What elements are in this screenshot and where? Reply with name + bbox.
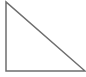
diagram-canvas (0, 0, 86, 77)
right-triangle-figure (0, 0, 86, 77)
right-triangle (6, 2, 85, 71)
